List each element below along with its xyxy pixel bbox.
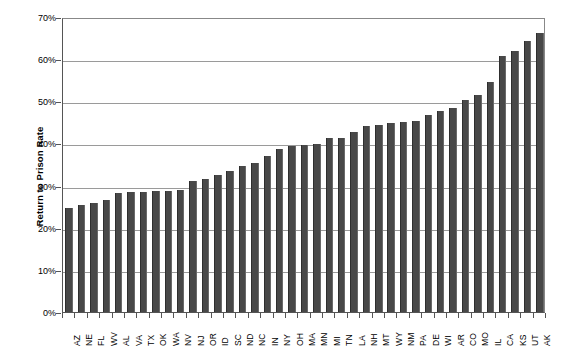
x-tick-mark	[260, 313, 261, 318]
x-tick-label: AR	[456, 334, 466, 346]
y-tick-label: 50%	[22, 97, 56, 107]
bar	[202, 179, 209, 312]
x-tick-mark	[62, 313, 63, 318]
x-tick-label: CA	[505, 334, 515, 346]
y-tick-label: 20%	[22, 224, 56, 234]
return-to-prison-rate-chart: Return to Prison Rate 0%10%20%30%40%50%6…	[0, 0, 564, 353]
bar	[326, 138, 333, 312]
bar	[115, 193, 122, 312]
bar	[239, 166, 246, 312]
bar	[90, 203, 97, 312]
x-tick-label: FL	[96, 336, 106, 346]
y-tick-mark	[56, 229, 61, 230]
x-tick-mark	[421, 313, 422, 318]
x-tick-label: OR	[208, 333, 218, 346]
x-tick-mark	[285, 313, 286, 318]
x-tick-label: NH	[369, 333, 379, 346]
x-tick-label: KS	[518, 334, 528, 346]
x-tick-label: MA	[307, 333, 317, 346]
x-tick-mark	[124, 313, 125, 318]
x-tick-mark	[173, 313, 174, 318]
bar	[487, 82, 494, 312]
x-tick-label: IL	[493, 339, 503, 347]
x-tick-label: DE	[431, 334, 441, 346]
x-tick-mark	[223, 313, 224, 318]
bar	[165, 191, 172, 312]
x-tick-mark	[520, 313, 521, 318]
x-tick-mark	[235, 313, 236, 318]
x-tick-label: AL	[121, 335, 131, 346]
x-tick-mark	[297, 313, 298, 318]
y-tick-mark	[56, 18, 61, 19]
bar	[449, 108, 456, 312]
x-tick-mark	[384, 313, 385, 318]
x-tick-mark	[74, 313, 75, 318]
x-tick-label: WI	[443, 335, 453, 346]
bar	[189, 181, 196, 312]
x-tick-mark	[483, 313, 484, 318]
x-tick-mark	[136, 313, 137, 318]
x-tick-mark	[186, 313, 187, 318]
plot-area	[62, 18, 545, 313]
x-tick-mark	[508, 313, 509, 318]
y-tick-label: 40%	[22, 139, 56, 149]
x-tick-mark	[211, 313, 212, 318]
x-tick-mark	[495, 313, 496, 318]
x-tick-mark	[248, 313, 249, 318]
x-tick-mark	[112, 313, 113, 318]
x-tick-mark	[372, 313, 373, 318]
y-tick-label: 70%	[22, 13, 56, 23]
bar	[140, 192, 147, 312]
y-tick-mark	[56, 102, 61, 103]
bars-layer	[63, 19, 544, 312]
x-tick-label: NV	[183, 334, 193, 346]
x-tick-mark	[545, 313, 546, 318]
bar	[313, 144, 320, 312]
bar	[276, 149, 283, 312]
x-tick-label: WA	[171, 332, 181, 346]
y-tick-mark	[56, 60, 61, 61]
x-tick-mark	[471, 313, 472, 318]
x-tick-mark	[322, 313, 323, 318]
x-tick-label: VA	[134, 335, 144, 346]
y-tick-label: 0%	[22, 308, 56, 318]
bar	[375, 125, 382, 312]
x-tick-mark	[273, 313, 274, 318]
bar	[511, 51, 518, 312]
bar	[400, 122, 407, 312]
bar	[127, 192, 134, 312]
x-tick-label: TX	[146, 335, 156, 346]
x-tick-label: NC	[257, 333, 267, 346]
x-tick-label: PA	[418, 335, 428, 346]
x-tick-label: LA	[357, 335, 367, 346]
x-tick-mark	[446, 313, 447, 318]
x-tick-label: WY	[394, 332, 404, 346]
bar	[474, 95, 481, 312]
x-tick-label: OH	[295, 333, 305, 346]
bar	[78, 205, 85, 312]
y-tick-mark	[56, 144, 61, 145]
x-tick-label: CO	[468, 333, 478, 346]
y-tick-label: 60%	[22, 55, 56, 65]
bar	[412, 121, 419, 312]
bar	[288, 146, 295, 312]
y-tick-mark	[56, 313, 61, 314]
x-tick-label: NM	[406, 332, 416, 346]
x-tick-label: SC	[233, 334, 243, 346]
x-tick-label: MN	[319, 332, 329, 346]
bar	[264, 156, 271, 312]
x-tick-label: NY	[282, 334, 292, 346]
bar	[499, 56, 506, 312]
x-tick-label: MT	[381, 333, 391, 346]
x-axis-tick-labels: AZNEFLWVALVATXOKWANVNJORIDSCNDNCINNYOHMA…	[62, 320, 545, 353]
x-tick-mark	[359, 313, 360, 318]
y-tick-label: 10%	[22, 266, 56, 276]
bar	[437, 111, 444, 312]
x-tick-mark	[409, 313, 410, 318]
x-tick-mark	[347, 313, 348, 318]
y-tick-mark	[56, 187, 61, 188]
x-tick-label: OK	[158, 333, 168, 346]
bar	[251, 163, 258, 312]
x-tick-label: IN	[270, 337, 280, 346]
y-tick-label: 30%	[22, 182, 56, 192]
